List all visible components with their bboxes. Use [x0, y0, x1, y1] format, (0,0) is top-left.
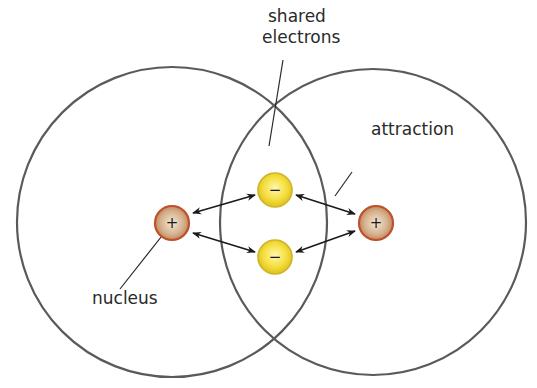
nucleus-label: nucleus	[92, 288, 158, 309]
minus-icon: −	[269, 248, 282, 266]
left-nucleus: +	[155, 206, 189, 240]
attraction-pointer	[335, 172, 352, 196]
shared-label-line2: electrons	[262, 27, 340, 48]
attraction-label: attraction	[371, 119, 454, 140]
nucleus-pointer	[120, 232, 165, 289]
attraction-arrow-left-bottom	[193, 233, 255, 252]
shared-electron-top: −	[258, 173, 292, 207]
right-nucleus: +	[359, 206, 393, 240]
shared-electrons-label: shared electrons	[262, 6, 340, 48]
minus-icon: −	[269, 181, 282, 199]
shared-label-line1: shared	[262, 6, 340, 27]
plus-icon: +	[166, 214, 179, 232]
attraction-arrow-left-top	[193, 195, 255, 213]
covalent-bond-diagram: + + − −	[0, 0, 537, 388]
shared-electron-bottom: −	[258, 240, 292, 274]
plus-icon: +	[370, 214, 383, 232]
